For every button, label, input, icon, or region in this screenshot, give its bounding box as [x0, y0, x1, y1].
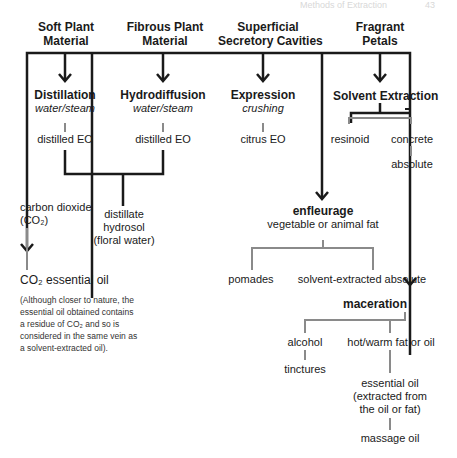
distillation-subtitle: water/steam [30, 102, 100, 115]
concrete-product: concrete [390, 133, 434, 146]
hydrodiffusion-node: Hydrodiffusion water/steam [118, 89, 208, 115]
note-line: considered in the same vein as [20, 330, 137, 342]
co2-essential-oil: CO₂ essential oil [20, 274, 109, 287]
label: Soft Plant [36, 20, 96, 34]
note-line: essential oil obtained contains [20, 306, 137, 318]
note-line: a residue of CO₂ and so is [20, 318, 137, 330]
label: distillate [93, 208, 155, 221]
label: (floral water) [93, 234, 155, 247]
solvent-extracted-absolute: solvent-extracted absolute [297, 273, 427, 286]
distillation-product: distilled EO [30, 133, 100, 146]
source-fragrant-petals: Fragrant Petals [350, 20, 410, 48]
source-fibrous-plant: Fibrous Plant Material [125, 20, 205, 48]
distillation-node: Distillation water/steam [30, 89, 100, 115]
label: Fragrant [350, 20, 410, 34]
label: Superficial [218, 20, 318, 34]
expression-subtitle: crushing [228, 102, 298, 115]
maceration-title: maceration [340, 298, 410, 311]
source-superficial-cavities: Superficial Secretory Cavities [218, 20, 318, 48]
label: Material [125, 34, 205, 48]
label: Fibrous Plant [125, 20, 205, 34]
label: (extracted from [350, 390, 430, 403]
tinctures-product: tinctures [283, 363, 327, 376]
enfleurage-subtitle: vegetable or animal fat [262, 218, 384, 231]
label: Petals [350, 34, 410, 48]
expression-node: Expression crushing [228, 89, 298, 115]
hydrodiffusion-title: Hydrodiffusion [118, 89, 208, 102]
label: the oil or fat) [350, 403, 430, 416]
alcohol-branch: alcohol [285, 336, 325, 349]
expression-title: Expression [228, 89, 298, 102]
absolute-product: absolute [390, 158, 434, 171]
label: hydrosol [93, 221, 155, 234]
solvent-extraction-title: Solvent Extraction [333, 90, 433, 103]
enfleurage-title: enfleurage [262, 205, 384, 218]
essential-oil-product: essential oil (extracted from the oil or… [350, 377, 430, 416]
co2-node: carbon dioxide (CO₂) [20, 201, 92, 227]
source-soft-plant: Soft Plant Material [36, 20, 96, 48]
label: essential oil [350, 377, 430, 390]
massage-oil-product: massage oil [355, 432, 425, 445]
distillation-title: Distillation [30, 89, 100, 102]
hydrodiffusion-product: distilled EO [128, 133, 198, 146]
expression-product: citrus EO [228, 133, 298, 146]
co2-note: (Although closer to nature, the essentia… [20, 294, 137, 354]
hydrodiffusion-subtitle: water/steam [118, 102, 208, 115]
co2-formula: (CO₂) [20, 214, 92, 227]
note-line: (Although closer to nature, the [20, 294, 137, 306]
fat-oil-branch: hot/warm fat or oil [345, 336, 437, 349]
label: Material [36, 34, 96, 48]
note-line: a solvent-extracted oil). [20, 342, 137, 354]
enfleurage-node: enfleurage vegetable or animal fat [262, 205, 384, 231]
distillate-hydrosol: distillate hydrosol (floral water) [93, 208, 155, 247]
pomades-product: pomades [226, 273, 276, 286]
resinoid-product: resinoid [330, 133, 370, 146]
co2-label: carbon dioxide [20, 201, 92, 214]
label: Secretory Cavities [218, 34, 318, 48]
